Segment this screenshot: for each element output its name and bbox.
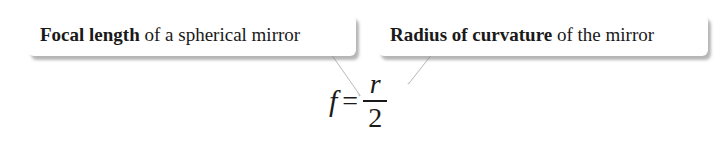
callout-focal-length-desc: of a spherical mirror bbox=[140, 24, 300, 45]
formula-denominator: 2 bbox=[368, 104, 382, 132]
callout-radius-desc: of the mirror bbox=[552, 24, 654, 45]
callout-focal-length: Focal length of a spherical mirror bbox=[28, 15, 356, 56]
formula-equals: = bbox=[342, 85, 358, 117]
callout-radius-of-curvature: Radius of curvature of the mirror bbox=[378, 15, 708, 56]
formula-lhs: f bbox=[329, 84, 337, 118]
callout-radius-term: Radius of curvature bbox=[390, 24, 552, 45]
callout-focal-length-term: Focal length bbox=[40, 24, 140, 45]
formula-fraction: r 2 bbox=[363, 70, 387, 132]
formula-numerator: r bbox=[367, 70, 384, 98]
formula: f = r 2 bbox=[329, 70, 387, 132]
